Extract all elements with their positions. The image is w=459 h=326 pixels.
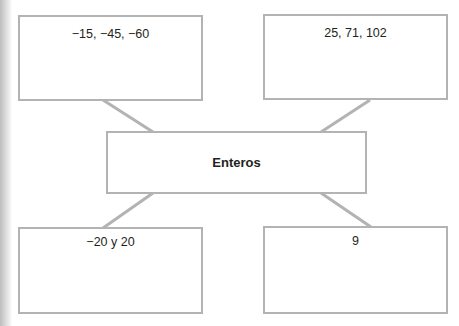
node-top-right-label: 25, 71, 102 bbox=[265, 16, 446, 40]
node-top-right: 25, 71, 102 bbox=[263, 14, 448, 100]
center-node-label: Enteros bbox=[212, 155, 260, 170]
node-bottom-left: −20 y 20 bbox=[18, 227, 203, 314]
node-top-left: −15, −45, −60 bbox=[18, 15, 203, 101]
center-node: Enteros bbox=[106, 131, 367, 194]
node-bottom-right: 9 bbox=[263, 226, 448, 314]
node-top-left-label: −15, −45, −60 bbox=[20, 17, 201, 41]
node-bottom-right-label: 9 bbox=[265, 228, 446, 248]
node-bottom-left-label: −20 y 20 bbox=[20, 229, 201, 249]
connector-top-right bbox=[321, 100, 370, 132]
connector-bottom-left bbox=[103, 193, 153, 228]
connector-bottom-right bbox=[321, 193, 371, 227]
connector-top-left bbox=[103, 100, 153, 132]
